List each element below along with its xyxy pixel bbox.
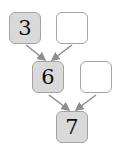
node-box-empty-top[interactable] — [56, 12, 88, 44]
node-box-empty-middle[interactable] — [80, 61, 112, 93]
arrow-3-to-6 — [26, 45, 45, 60]
arrow-empty1-to-6 — [52, 45, 72, 60]
node-box-7: 7 — [56, 111, 88, 143]
arrow-6-to-7 — [49, 95, 69, 110]
node-box-6: 6 — [32, 61, 64, 93]
arrow-empty2-to-7 — [76, 95, 96, 110]
node-box-3: 3 — [9, 12, 41, 44]
